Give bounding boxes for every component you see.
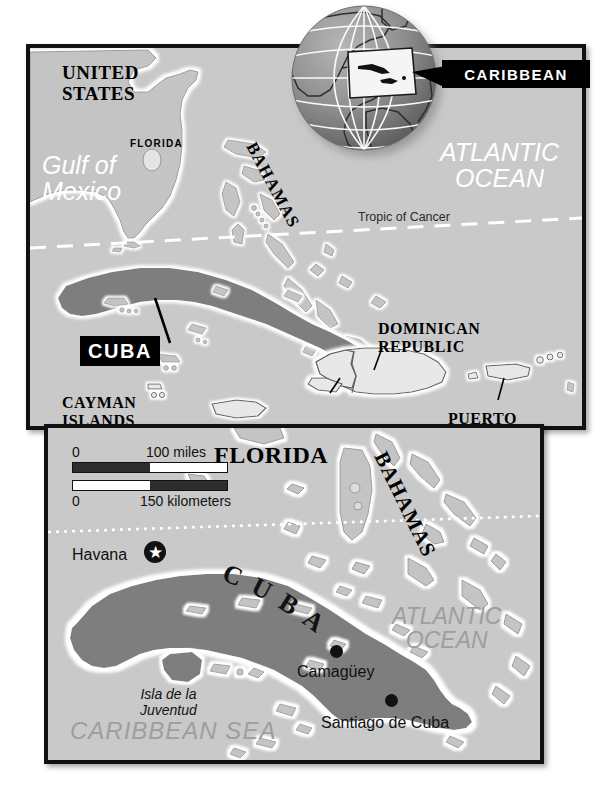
scale-miles-zero: 0 — [72, 444, 94, 460]
hispaniola-landmass — [308, 348, 446, 394]
globe-highlight-box — [348, 48, 416, 98]
capital-star-icon-havana: ★ — [144, 541, 166, 563]
scale-km-label: 150 kilometers — [140, 493, 231, 509]
scale-track-miles — [72, 462, 228, 473]
callout-caribbean: CARIBBEAN — [442, 60, 590, 88]
callout-cuba: CUBA — [80, 336, 160, 366]
cuba-detail-map: BAHAMAS C U B A 0 100 miles 0 150 kilome… — [44, 424, 544, 764]
scale-track-kilometers — [72, 480, 228, 491]
scale-km-zero: 0 — [72, 493, 94, 509]
scale-miles-label: 100 miles — [146, 444, 206, 460]
jamaica-landmass — [212, 400, 266, 418]
city-dot-santiago — [385, 694, 398, 707]
locator-globe: CARIBBEAN — [286, 4, 446, 164]
city-dot-camaguey — [330, 645, 343, 658]
scale-bar: 0 100 miles 0 150 kilometers — [72, 444, 262, 509]
